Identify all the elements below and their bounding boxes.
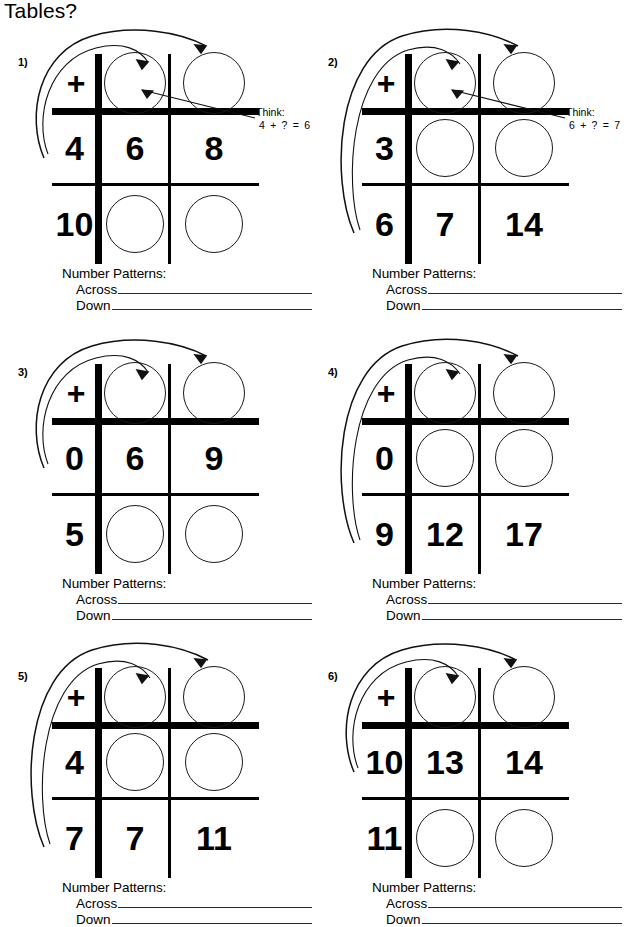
down-label: Down	[76, 608, 111, 623]
cell-bottom-0: 5	[52, 498, 97, 570]
cell-bottom-2[interactable]	[172, 188, 256, 260]
answer-circle[interactable]	[185, 505, 243, 563]
cell-header-1[interactable]	[102, 672, 168, 722]
cell-bottom-1[interactable]	[102, 498, 168, 570]
cell-middle-1[interactable]	[102, 729, 168, 795]
cell-middle-2: 14	[482, 729, 566, 795]
cell-middle-2[interactable]	[482, 115, 566, 181]
across-blank-rule[interactable]	[118, 293, 312, 294]
down-blank-rule[interactable]	[422, 923, 622, 924]
cell-header-2[interactable]	[482, 58, 566, 108]
cell-header-1[interactable]	[412, 58, 478, 108]
across-blank-rule[interactable]	[118, 907, 312, 908]
cell-bottom-2[interactable]	[172, 498, 256, 570]
answer-circle[interactable]	[183, 52, 245, 114]
answer-circle[interactable]	[104, 666, 166, 728]
cell-bottom-2[interactable]	[482, 802, 566, 874]
down-blank-rule[interactable]	[112, 309, 312, 310]
number-patterns-block: Number Patterns:AcrossDown	[62, 880, 312, 927]
down-blank-rule[interactable]	[422, 619, 622, 620]
answer-circle[interactable]	[416, 809, 474, 867]
problem-panel-2: 2)+36714Think:6 + ? = 7Number Patterns:A…	[310, 8, 623, 308]
grid-column-divider	[478, 364, 481, 574]
across-blank-rule[interactable]	[118, 603, 312, 604]
answer-circle[interactable]	[416, 429, 474, 487]
number-patterns-title: Number Patterns:	[62, 266, 312, 281]
down-answer-line[interactable]: Down	[372, 298, 622, 313]
cell-header-1[interactable]	[102, 368, 168, 418]
grid-row-divider	[52, 183, 259, 186]
cell-header-2[interactable]	[482, 672, 566, 722]
across-answer-line[interactable]: Across	[372, 896, 622, 911]
cell-header-1[interactable]	[412, 672, 478, 722]
answer-circle[interactable]	[106, 505, 164, 563]
across-blank-rule[interactable]	[428, 603, 622, 604]
answer-circle[interactable]	[185, 195, 243, 253]
cell-middle-2[interactable]	[482, 425, 566, 491]
cell-header-2[interactable]	[482, 368, 566, 418]
think-equation: 6 + ? = 7	[566, 119, 621, 132]
number-patterns-block: Number Patterns:AcrossDown	[372, 880, 622, 927]
cell-middle-1[interactable]	[412, 425, 478, 491]
answer-circle[interactable]	[493, 362, 555, 424]
answer-circle[interactable]	[495, 429, 553, 487]
across-answer-line[interactable]: Across	[372, 282, 622, 297]
answer-circle[interactable]	[106, 733, 164, 791]
across-label: Across	[76, 896, 117, 911]
grid-row-divider	[52, 493, 259, 496]
down-blank-rule[interactable]	[112, 923, 312, 924]
across-answer-line[interactable]: Across	[62, 896, 312, 911]
answer-circle[interactable]	[493, 666, 555, 728]
down-answer-line[interactable]: Down	[62, 608, 312, 623]
across-blank-rule[interactable]	[428, 907, 622, 908]
across-answer-line[interactable]: Across	[372, 592, 622, 607]
down-blank-rule[interactable]	[112, 619, 312, 620]
answer-circle[interactable]	[183, 362, 245, 424]
cell-bottom-1[interactable]	[102, 188, 168, 260]
answer-circle[interactable]	[493, 52, 555, 114]
cell-middle-0: 0	[362, 425, 407, 491]
answer-circle[interactable]	[414, 362, 476, 424]
grid-row-divider	[362, 493, 569, 496]
cell-bottom-0: 6	[362, 188, 407, 260]
down-answer-line[interactable]: Down	[372, 608, 622, 623]
across-answer-line[interactable]: Across	[62, 282, 312, 297]
cell-header-1[interactable]	[412, 368, 478, 418]
cell-header-0: +	[365, 58, 407, 108]
down-answer-line[interactable]: Down	[62, 912, 312, 927]
number-patterns-title: Number Patterns:	[372, 880, 622, 895]
across-answer-line[interactable]: Across	[62, 592, 312, 607]
across-blank-rule[interactable]	[428, 293, 622, 294]
grid-column-divider	[478, 668, 481, 878]
cell-header-2[interactable]	[172, 368, 256, 418]
cell-bottom-1[interactable]	[412, 802, 478, 874]
problem-panel-4: 4)+091217Number Patterns:AcrossDown	[310, 318, 623, 618]
down-blank-rule[interactable]	[422, 309, 622, 310]
answer-circle[interactable]	[104, 52, 166, 114]
cell-header-2[interactable]	[172, 672, 256, 722]
cell-middle-1[interactable]	[412, 115, 478, 181]
number-patterns-title: Number Patterns:	[62, 576, 312, 591]
down-answer-line[interactable]: Down	[372, 912, 622, 927]
answer-circle[interactable]	[495, 119, 553, 177]
number-patterns-block: Number Patterns:AcrossDown	[62, 576, 312, 623]
answer-circle[interactable]	[106, 195, 164, 253]
answer-circle[interactable]	[183, 666, 245, 728]
number-patterns-block: Number Patterns:AcrossDown	[372, 266, 622, 313]
answer-circle[interactable]	[414, 666, 476, 728]
cell-header-1[interactable]	[102, 58, 168, 108]
think-annotation: Think:6 + ? = 7	[566, 106, 621, 131]
answer-circle[interactable]	[495, 809, 553, 867]
answer-circle[interactable]	[416, 119, 474, 177]
down-answer-line[interactable]: Down	[62, 298, 312, 313]
think-annotation: Think:4 + ? = 6	[256, 106, 311, 131]
problem-panel-1: 1)+46810Think:4 + ? = 6Number Patterns:A…	[0, 8, 313, 308]
cell-bottom-0: 9	[362, 498, 407, 570]
answer-circle[interactable]	[185, 733, 243, 791]
answer-circle[interactable]	[414, 52, 476, 114]
grid-row-divider	[362, 183, 569, 186]
answer-circle[interactable]	[104, 362, 166, 424]
cell-middle-2[interactable]	[172, 729, 256, 795]
cell-header-2[interactable]	[172, 58, 256, 108]
